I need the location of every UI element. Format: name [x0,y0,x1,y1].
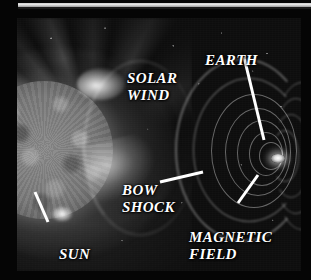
magnetosphere-group [167,46,301,246]
figure-root: SOLAR WIND EARTH BOW SHOCK MAGNETIC FIEL… [0,0,311,280]
label-sun: SUN [59,246,90,263]
label-earth: EARTH [205,52,258,69]
label-solar-wind: SOLAR WIND [127,70,177,104]
label-magnetic-field: MAGNETIC FIELD [189,229,272,263]
illustration-plate: SOLAR WIND EARTH BOW SHOCK MAGNETIC FIEL… [17,18,301,271]
earth-marker [271,154,285,163]
label-bow-shock: BOW SHOCK [122,182,175,216]
page-top-strip-shadow [18,7,311,9]
sun-limb-flare [51,206,73,222]
